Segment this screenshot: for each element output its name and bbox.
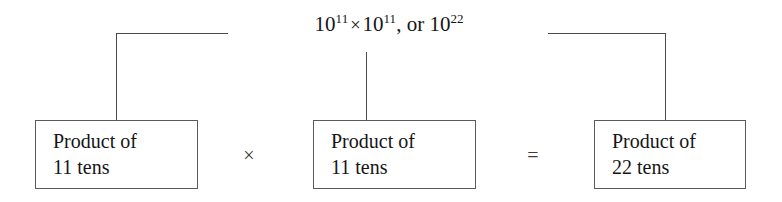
box-middle-line-1: Product of: [331, 129, 475, 155]
bracket-right-horizontal-line: [548, 33, 666, 34]
bracket-left-horizontal-line: [116, 33, 228, 34]
bracket-right-vertical-line: [665, 33, 666, 121]
bracket-left-vertical-line: [116, 33, 117, 121]
exponent-equation-label: 1011×1011, or 1022: [228, 14, 550, 35]
first-power-base: 10: [315, 12, 336, 36]
box-right-line-1: Product of: [612, 129, 745, 155]
box-middle-line-2: 11 tens: [331, 155, 475, 181]
box-left-line-2: 11 tens: [53, 155, 197, 181]
first-power-exponent: 11: [336, 11, 349, 26]
bracket-middle-vertical-line: [366, 52, 367, 121]
equals-operator: =: [512, 145, 554, 165]
or-connector-text: , or: [396, 12, 429, 36]
box-left-line-1: Product of: [53, 129, 197, 155]
box-product-of-22-tens-right: Product of 22 tens: [594, 120, 746, 189]
box-right-line-2: 22 tens: [612, 155, 745, 181]
result-power-exponent: 22: [450, 11, 463, 26]
second-power-base: 10: [363, 12, 384, 36]
diagram-canvas: 1011×1011, or 1022 Product of 11 tens Pr…: [0, 0, 782, 202]
times-operator: ×: [228, 145, 270, 165]
multiplication-sign: ×: [348, 15, 362, 35]
box-product-of-11-tens-middle: Product of 11 tens: [313, 120, 476, 189]
box-product-of-11-tens-left: Product of 11 tens: [35, 120, 198, 189]
second-power-exponent: 11: [384, 11, 397, 26]
result-power-base: 10: [429, 12, 450, 36]
